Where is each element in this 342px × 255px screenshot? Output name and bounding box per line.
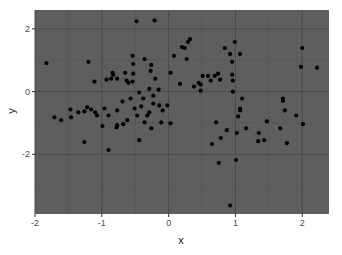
data-point bbox=[218, 78, 222, 82]
data-point bbox=[209, 79, 213, 83]
data-point bbox=[278, 126, 282, 130]
data-point bbox=[153, 77, 157, 81]
data-point bbox=[111, 73, 115, 77]
data-point bbox=[235, 131, 239, 135]
data-point bbox=[137, 90, 141, 94]
data-point bbox=[300, 46, 304, 50]
data-point bbox=[234, 158, 238, 162]
data-point bbox=[206, 74, 210, 78]
y-tick-label: 0 bbox=[25, 87, 30, 97]
data-point bbox=[199, 83, 203, 87]
data-point bbox=[201, 74, 205, 78]
data-point bbox=[124, 79, 128, 83]
data-point bbox=[294, 113, 298, 117]
data-point bbox=[120, 100, 124, 104]
data-point bbox=[231, 90, 235, 94]
data-point bbox=[210, 142, 214, 146]
data-point bbox=[238, 52, 242, 56]
data-point bbox=[143, 120, 147, 124]
data-point bbox=[157, 103, 161, 107]
data-point bbox=[161, 108, 165, 112]
y-axis: -202 bbox=[22, 24, 35, 160]
data-point bbox=[76, 110, 80, 114]
data-point bbox=[115, 108, 119, 112]
data-point bbox=[131, 62, 135, 66]
data-point bbox=[85, 105, 89, 109]
data-point bbox=[86, 60, 90, 64]
data-point bbox=[44, 61, 48, 65]
data-point bbox=[230, 73, 234, 77]
x-tick-label: 2 bbox=[300, 218, 305, 228]
data-point bbox=[143, 57, 147, 61]
data-point bbox=[233, 40, 237, 44]
data-point bbox=[315, 66, 319, 70]
data-point bbox=[149, 69, 153, 73]
data-point bbox=[147, 87, 151, 91]
data-point bbox=[244, 126, 248, 130]
data-point bbox=[157, 88, 161, 92]
data-point bbox=[104, 78, 108, 82]
y-axis-title: y bbox=[5, 108, 17, 114]
data-point bbox=[100, 124, 104, 128]
data-point bbox=[231, 79, 235, 83]
data-point bbox=[125, 118, 129, 122]
data-point bbox=[114, 125, 118, 129]
data-point bbox=[123, 71, 127, 75]
data-point bbox=[133, 106, 137, 110]
data-point bbox=[68, 107, 72, 111]
data-point bbox=[131, 80, 135, 84]
data-point bbox=[236, 114, 240, 118]
data-point bbox=[69, 115, 73, 119]
data-point bbox=[135, 113, 139, 117]
data-point bbox=[183, 46, 187, 50]
data-point bbox=[178, 82, 182, 86]
data-point bbox=[169, 121, 173, 125]
data-point bbox=[92, 80, 96, 84]
data-point bbox=[109, 77, 113, 81]
data-point bbox=[106, 113, 110, 117]
x-tick-label: 1 bbox=[233, 218, 238, 228]
data-point bbox=[281, 99, 285, 103]
data-point bbox=[188, 37, 192, 41]
data-point bbox=[228, 203, 232, 207]
x-axis: -2-1012 bbox=[31, 214, 305, 228]
data-point bbox=[135, 19, 139, 23]
data-point bbox=[102, 106, 106, 110]
data-point bbox=[301, 122, 305, 126]
data-point bbox=[151, 101, 155, 105]
data-point bbox=[141, 96, 145, 100]
data-point bbox=[285, 141, 289, 145]
data-point bbox=[172, 54, 176, 58]
x-tick-label: 0 bbox=[166, 218, 171, 228]
data-point bbox=[262, 138, 266, 142]
y-tick-label: -2 bbox=[22, 149, 30, 159]
x-tick-label: -1 bbox=[98, 218, 106, 228]
data-point bbox=[257, 131, 261, 135]
data-point bbox=[52, 115, 56, 119]
data-point bbox=[153, 18, 157, 22]
data-point bbox=[137, 138, 141, 142]
data-point bbox=[95, 113, 99, 117]
data-point bbox=[139, 104, 143, 108]
x-axis-title: x bbox=[178, 234, 184, 246]
data-point bbox=[214, 120, 218, 124]
data-point bbox=[225, 128, 229, 132]
data-point bbox=[216, 72, 220, 76]
data-point bbox=[299, 65, 303, 69]
data-point bbox=[230, 60, 234, 64]
data-point bbox=[131, 54, 135, 58]
data-point bbox=[115, 77, 119, 81]
data-point bbox=[283, 108, 287, 112]
data-point bbox=[149, 126, 153, 130]
data-point bbox=[228, 52, 232, 56]
data-point bbox=[129, 96, 133, 100]
data-point bbox=[192, 85, 196, 89]
data-point bbox=[223, 46, 227, 50]
scatter-chart: -2-1012 -202 x y bbox=[0, 0, 342, 255]
data-point bbox=[159, 120, 163, 124]
x-tick-label: -2 bbox=[31, 218, 39, 228]
data-point bbox=[106, 148, 110, 152]
data-point bbox=[82, 109, 86, 113]
data-point bbox=[240, 96, 244, 100]
data-point bbox=[185, 57, 189, 61]
